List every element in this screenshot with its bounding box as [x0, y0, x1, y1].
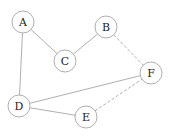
- node-label: F: [147, 67, 155, 80]
- graph-diagram: ABCFDE: [0, 0, 171, 136]
- nodes-layer: ABCFDE: [8, 11, 162, 128]
- edges-layer: [20, 29, 144, 115]
- node-a: A: [12, 11, 34, 33]
- node-f: F: [140, 62, 162, 84]
- edge-e-f: [95, 79, 142, 111]
- edge-b-c: [73, 34, 97, 54]
- node-d: D: [8, 95, 30, 117]
- node-c: C: [54, 50, 76, 72]
- node-b: B: [95, 16, 117, 38]
- node-label: A: [18, 16, 28, 29]
- edge-a-d: [20, 33, 23, 95]
- edge-b-f: [114, 35, 144, 65]
- node-label: E: [82, 111, 90, 124]
- node-label: D: [15, 100, 24, 113]
- edge-d-f: [30, 76, 141, 104]
- node-label: B: [102, 21, 110, 34]
- node-e: E: [75, 106, 97, 128]
- edge-d-e: [30, 108, 75, 115]
- node-label: C: [61, 55, 69, 68]
- edge-a-c: [31, 29, 57, 53]
